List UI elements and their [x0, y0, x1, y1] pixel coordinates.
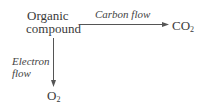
carbon-flow-arrow [80, 22, 169, 27]
arrows-layer [0, 0, 204, 112]
electron-flow-arrow [51, 38, 56, 87]
